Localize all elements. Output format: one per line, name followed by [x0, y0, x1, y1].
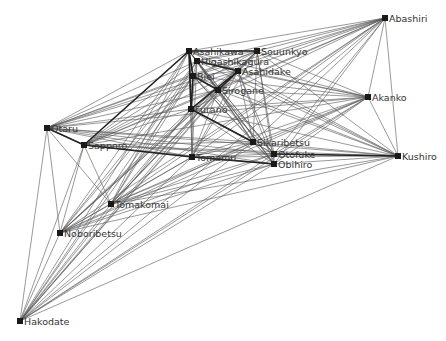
node-label: Kushiro [402, 151, 437, 162]
node-square-icon [186, 48, 192, 54]
node-square-icon [365, 94, 371, 100]
node-square-icon [215, 87, 221, 93]
node-square-icon [382, 15, 388, 21]
node-kushiro[interactable]: Kushiro [395, 151, 437, 162]
node-square-icon [17, 318, 23, 324]
node-label: Abashiri [389, 13, 428, 24]
node-label: Noboribetsu [64, 228, 122, 239]
edge [385, 18, 398, 156]
edge [20, 61, 197, 321]
node-square-icon [235, 68, 241, 74]
node-label: Sirogane [222, 85, 264, 96]
node-biei[interactable]: Biei [190, 71, 215, 82]
node-label: Biei [197, 71, 215, 82]
node-square-icon [395, 153, 401, 159]
node-label: Asahidake [242, 66, 291, 77]
edge [20, 128, 47, 321]
node-noboribetsu[interactable]: Noboribetsu [57, 228, 122, 239]
edge [111, 156, 398, 204]
node-square-icon [81, 142, 87, 148]
edge [47, 128, 60, 233]
node-label: Hakodate [24, 316, 70, 327]
node-square-icon [254, 48, 260, 54]
node-square-icon [57, 230, 63, 236]
edge [20, 51, 189, 321]
edge [20, 157, 192, 321]
node-furano[interactable]: Furano [188, 104, 228, 115]
node-square-icon [44, 125, 50, 131]
node-square-icon [250, 139, 256, 145]
node-square-icon [271, 151, 277, 157]
node-obihiro[interactable]: Obihiro [271, 159, 313, 170]
node-label: Otaru [51, 123, 78, 134]
node-sapporo[interactable]: Sapporo [81, 140, 127, 151]
node-otaru[interactable]: Otaru [44, 123, 78, 134]
edge [111, 18, 385, 204]
node-square-icon [189, 154, 195, 160]
node-label: Tomakomai [114, 199, 169, 210]
node-sirogane[interactable]: Sirogane [215, 85, 264, 96]
node-square-icon [108, 201, 114, 207]
node-label: Akanko [372, 92, 407, 103]
edge [20, 142, 253, 321]
node-tomakomai[interactable]: Tomakomai [108, 199, 169, 210]
node-label: Sikaribetsu [257, 137, 310, 148]
edge [20, 164, 274, 321]
node-layer: AsahikawaSouunkyoHigashikaguraBieiAsahid… [17, 13, 437, 327]
node-square-icon [188, 106, 194, 112]
node-akanko[interactable]: Akanko [365, 92, 407, 103]
node-square-icon [271, 161, 277, 167]
node-abashiri[interactable]: Abashiri [382, 13, 428, 24]
node-square-icon [194, 58, 200, 64]
network-graph: AsahikawaSouunkyoHigashikaguraBieiAsahid… [0, 0, 446, 341]
node-label: Obihiro [278, 159, 313, 170]
edge [20, 156, 398, 321]
node-label: Tomamu [195, 152, 236, 163]
edge [84, 18, 385, 145]
node-square-icon [190, 73, 196, 79]
node-sikaribetsu[interactable]: Sikaribetsu [250, 137, 310, 148]
node-label: Sapporo [88, 140, 127, 151]
node-label: Furano [195, 104, 228, 115]
node-asahidake[interactable]: Asahidake [235, 66, 291, 77]
edge [60, 97, 368, 233]
node-tomamu[interactable]: Tomamu [189, 152, 236, 163]
node-hakodate[interactable]: Hakodate [17, 316, 70, 327]
